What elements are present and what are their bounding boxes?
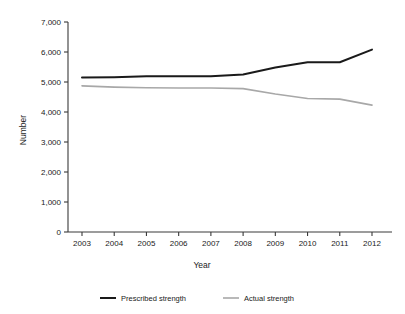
x-axis-title: Year bbox=[193, 260, 210, 270]
line-chart-figure: 01,0002,0003,0004,0005,0006,0007,000 Num… bbox=[0, 0, 405, 314]
y-tick-label: 4,000 bbox=[41, 108, 62, 117]
y-tick-label: 1,000 bbox=[41, 198, 62, 207]
y-axis-title: Number bbox=[18, 115, 28, 145]
x-tick-label: 2006 bbox=[170, 239, 188, 248]
x-tick-label: 2011 bbox=[331, 239, 349, 248]
x-tick-label: 2008 bbox=[234, 239, 252, 248]
y-tick-label: 5,000 bbox=[41, 78, 62, 87]
x-tick-label: 2012 bbox=[363, 239, 381, 248]
y-tick-label: 0 bbox=[57, 228, 62, 237]
y-tick-label: 6,000 bbox=[41, 48, 62, 57]
legend-label-0: Prescribed strength bbox=[121, 294, 186, 303]
y-tick-label: 2,000 bbox=[41, 168, 62, 177]
x-tick-label: 2005 bbox=[138, 239, 156, 248]
x-tick-label: 2010 bbox=[299, 239, 317, 248]
x-tick-label: 2009 bbox=[266, 239, 284, 248]
legend-label-1: Actual strength bbox=[244, 294, 294, 303]
x-tick-label: 2004 bbox=[105, 239, 123, 248]
x-tick-label: 2007 bbox=[202, 239, 220, 248]
x-tick-label: 2003 bbox=[73, 239, 91, 248]
chart-svg: 01,0002,0003,0004,0005,0006,0007,000 Num… bbox=[0, 0, 405, 314]
y-tick-label: 7,000 bbox=[41, 18, 62, 27]
y-tick-label: 3,000 bbox=[41, 138, 62, 147]
